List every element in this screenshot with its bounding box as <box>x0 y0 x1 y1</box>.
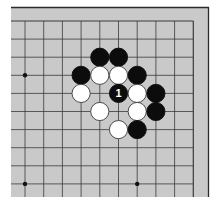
move-number-label: 1 <box>115 87 121 99</box>
white-stone <box>91 66 109 84</box>
black-stone <box>128 66 146 84</box>
go-board-diagram: 1 <box>0 0 219 204</box>
star-point-icon <box>23 73 27 77</box>
board-background <box>11 7 209 197</box>
white-stone <box>91 102 109 120</box>
star-point-icon <box>135 182 139 186</box>
star-point-icon <box>23 182 27 186</box>
black-stone <box>91 48 109 66</box>
white-stone <box>109 121 127 139</box>
white-stone <box>72 84 90 102</box>
black-stone <box>147 84 165 102</box>
white-stone <box>128 102 146 120</box>
black-stone <box>72 66 90 84</box>
white-stone <box>128 84 146 102</box>
black-stone: 1 <box>109 84 127 102</box>
white-stone <box>109 66 127 84</box>
black-stone <box>109 48 127 66</box>
black-stone <box>128 121 146 139</box>
black-stone <box>147 102 165 120</box>
